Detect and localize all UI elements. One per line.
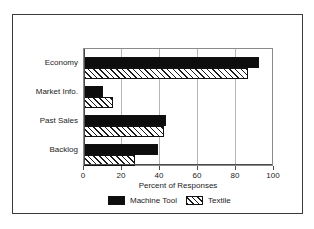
xtick-mark-0 [83,166,84,170]
legend-entry-textile: Textile [186,195,231,206]
xtick-label-80: 80 [231,171,240,180]
xtick-mark-40 [159,166,160,170]
chart-legend: Machine Tool Textile [108,195,218,207]
category-axis-line [84,164,272,165]
xtick-mark-60 [197,166,198,170]
xtick-label-0: 0 [81,171,85,180]
category-label-economy: Economy [45,58,78,67]
plot-area [83,48,273,166]
legend-label-machine-tool: Machine Tool [130,196,177,205]
category-label-market-info: Market Info. [36,87,78,96]
xtick-label-100: 100 [266,171,279,180]
figure-canvas: Economy Market Info. Past Sales Backlog … [0,0,314,229]
bar-machine-tool-past-sales [84,115,166,126]
legend-label-textile: Textile [208,196,231,205]
legend-swatch-machine-tool [108,196,125,205]
bar-machine-tool-market-info [84,86,103,97]
category-axis-labels: Economy Market Info. Past Sales Backlog [18,48,78,166]
xtick-mark-100 [273,166,274,170]
bar-textile-past-sales [84,126,164,137]
bar-machine-tool-economy [84,57,259,68]
bar-textile-economy [84,68,248,79]
bar-textile-market-info [84,97,113,108]
x-axis-title: Percent of Responses [83,181,273,190]
xtick-label-60: 60 [193,171,202,180]
category-label-backlog: Backlog [50,145,78,154]
xtick-mark-80 [235,166,236,170]
legend-entry-machine-tool: Machine Tool [108,195,177,206]
value-axis-line [84,49,85,165]
xtick-mark-20 [121,166,122,170]
legend-swatch-textile [186,196,203,205]
category-label-past-sales: Past Sales [40,116,78,125]
xtick-label-20: 20 [117,171,126,180]
xtick-label-40: 40 [155,171,164,180]
bar-machine-tool-backlog [84,144,158,155]
